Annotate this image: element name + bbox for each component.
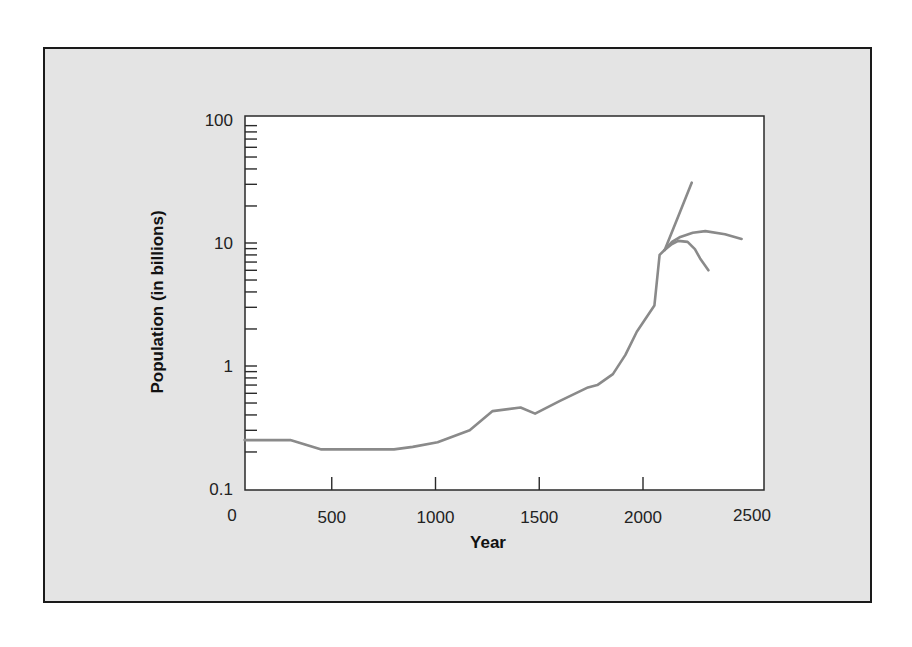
x-tick-label: 2000 bbox=[624, 508, 662, 527]
x-tick-label: 1500 bbox=[520, 508, 558, 527]
population-chart: 0.1110100 05001000150020002500 Year Popu… bbox=[0, 0, 912, 647]
y-tick-label: 0.1 bbox=[209, 480, 233, 499]
x-tick-label: 0 bbox=[227, 506, 236, 525]
x-axis-tick-labels: 05001000150020002500 bbox=[227, 506, 771, 527]
x-tick-label: 1000 bbox=[417, 508, 455, 527]
x-axis-title: Year bbox=[470, 533, 506, 552]
y-tick-label: 1 bbox=[224, 357, 233, 376]
x-tick-label: 500 bbox=[318, 508, 346, 527]
y-tick-label: 10 bbox=[214, 234, 233, 253]
x-tick-label: 2500 bbox=[733, 506, 771, 525]
plot-area bbox=[245, 116, 764, 490]
y-axis-tick-labels: 0.1110100 bbox=[205, 111, 233, 499]
y-axis-title: Population (in billions) bbox=[148, 210, 167, 393]
y-tick-label: 100 bbox=[205, 111, 233, 130]
